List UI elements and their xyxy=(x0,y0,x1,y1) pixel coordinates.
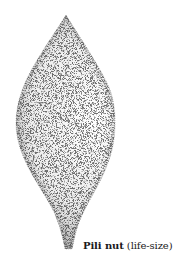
caption-note: (life-size) xyxy=(127,240,173,251)
figure-caption: Pili nut (life-size) xyxy=(83,240,172,251)
caption-name: Pili nut xyxy=(83,240,124,251)
nut-body xyxy=(0,0,181,267)
pili-nut-illustration xyxy=(0,0,181,267)
